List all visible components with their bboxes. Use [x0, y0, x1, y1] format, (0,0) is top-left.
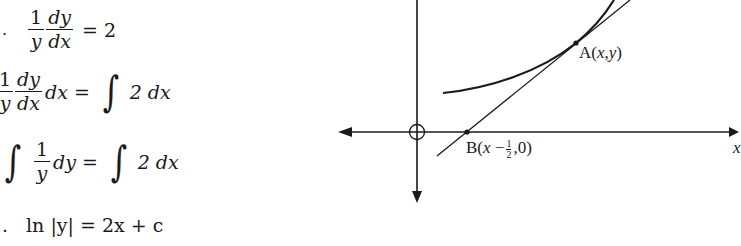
point-b-label: B(x −12,0) [466, 138, 532, 160]
fraction-one-half: 12 [506, 139, 511, 160]
x-axis-label: x [733, 138, 741, 158]
point-b [464, 129, 469, 134]
right-arrow-icon [729, 127, 739, 137]
point-a-label: A(x,y) [579, 43, 622, 63]
down-arrow-icon [412, 191, 422, 203]
left-arrow-icon [338, 127, 352, 137]
point-a [573, 40, 578, 45]
